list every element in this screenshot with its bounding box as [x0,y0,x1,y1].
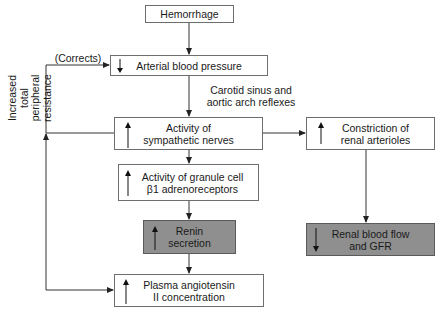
node-label: Hemorrhage [160,8,218,20]
node-label: Plasma angiotensin II concentration [143,279,235,303]
up-arrow-icon [122,279,130,304]
connector-lines [0,0,443,316]
up-arrow-icon [124,170,132,196]
node-renal-arteriole-constriction: Constriction of renal arterioles [306,117,435,150]
edge-label-reflexes: Carotid sinus and aortic arch reflexes [196,84,306,108]
node-label: Activity of granule cell β1 adrenorecept… [134,171,244,195]
node-label: Renal blood flow and GFR [332,228,410,252]
node-sympathetic-activity: Activity of sympathetic nerves [114,117,263,150]
node-label: Arterial blood pressure [136,60,242,72]
node-hemorrhage: Hemorrhage [145,5,234,23]
up-arrow-icon [151,226,159,250]
node-arterial-blood-pressure: Arterial blood pressure [110,55,268,76]
edge-label-resistance: Increased total peripheral resistance [7,66,53,130]
up-arrow-icon [317,122,325,144]
node-renal-blood-flow-gfr: Renal blood flow and GFR [306,223,435,256]
down-arrow-icon [312,228,320,252]
down-arrow-icon [116,59,124,73]
node-label: Constriction of renal arterioles [331,122,410,146]
up-arrow-icon [124,122,132,148]
node-label: Renin secretion [168,225,211,249]
node-label: Activity of sympathetic nerves [143,122,233,146]
edge-label-corrects: (Corrects) [50,52,106,64]
node-renin-secretion: Renin secretion [143,220,236,254]
node-granule-cell-activity: Activity of granule cell β1 adrenorecept… [118,164,259,201]
node-plasma-angiotensin: Plasma angiotensin II concentration [114,274,264,307]
